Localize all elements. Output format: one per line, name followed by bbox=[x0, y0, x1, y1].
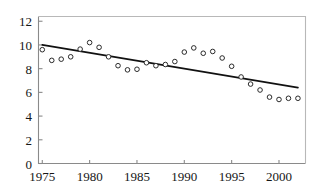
x-tick-label: 1980 bbox=[77, 170, 103, 183]
y-tick-label: 0 bbox=[6, 157, 32, 170]
scatter-plot-canvas bbox=[0, 0, 320, 196]
y-tick-label: 2 bbox=[6, 133, 32, 146]
tick-marks bbox=[39, 21, 279, 163]
x-tick-label: 1985 bbox=[124, 170, 150, 183]
chart-figure: 024681012 197519801985199019952000 bbox=[0, 0, 320, 196]
x-tick-label: 1995 bbox=[219, 170, 245, 183]
axis-frame bbox=[39, 17, 306, 164]
y-tick-label: 10 bbox=[6, 38, 32, 51]
x-tick-label: 2000 bbox=[266, 170, 292, 183]
y-tick-label: 4 bbox=[6, 110, 32, 123]
x-tick-label: 1975 bbox=[29, 170, 55, 183]
y-tick-label: 8 bbox=[6, 62, 32, 75]
x-tick-label: 1990 bbox=[171, 170, 197, 183]
data-point-markers bbox=[40, 40, 300, 102]
y-tick-label: 12 bbox=[6, 15, 32, 28]
y-tick-label: 6 bbox=[6, 86, 32, 99]
